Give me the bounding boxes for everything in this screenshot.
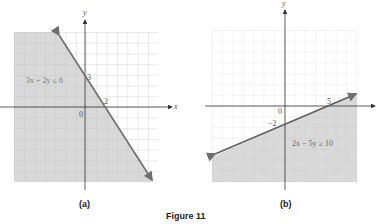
origin-label-b: 0 xyxy=(278,107,282,116)
y-axis-label-b: y xyxy=(281,0,286,8)
inequality-label-a: 3x + 2y ≤ 6 xyxy=(26,76,63,85)
inequality-label-b: 2x − 5y ≥ 10 xyxy=(292,139,333,148)
panel-a: x y 0 3 2 3x + 2y ≤ 6 xyxy=(0,8,178,190)
x-axis-label-a: x xyxy=(173,102,178,111)
x-intercept-label-b: 5 xyxy=(327,97,331,106)
x-intercept-label-a: 2 xyxy=(104,97,108,106)
y-axis-label-a: y xyxy=(82,8,87,17)
y-intercept-label-a: 3 xyxy=(87,73,91,82)
panel-label-b: (b) xyxy=(280,199,292,209)
origin-label-a: 0 xyxy=(79,110,83,119)
panel-label-a: (a) xyxy=(79,199,90,209)
figure-11: x y 0 3 2 3x + 2y ≤ 6 y 0 5 −2 2x − 5y ≥… xyxy=(0,0,379,224)
figure-caption: Figure 11 xyxy=(166,211,206,221)
panel-b: y 0 5 −2 2x − 5y ≥ 10 xyxy=(205,0,375,190)
y-intercept-label-b: −2 xyxy=(268,119,277,128)
